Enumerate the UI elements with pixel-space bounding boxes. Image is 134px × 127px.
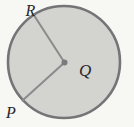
circle-diagram: R Q P xyxy=(0,0,134,127)
center-point-dot xyxy=(62,60,68,66)
label-R: R xyxy=(25,2,36,19)
label-Q: Q xyxy=(79,61,91,80)
geometry-figure: R Q P xyxy=(0,0,134,127)
label-P: P xyxy=(5,104,16,121)
